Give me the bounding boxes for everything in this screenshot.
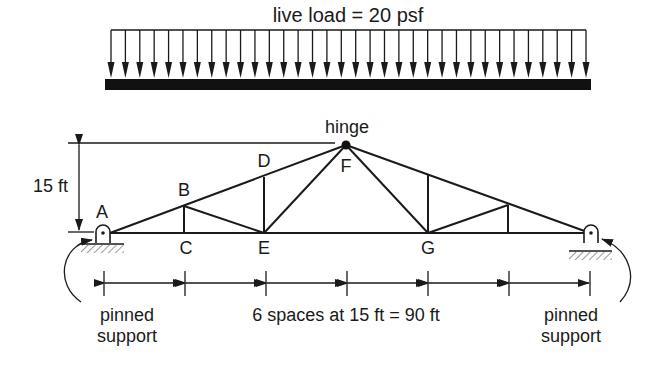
left-support-label-line2: support <box>97 326 157 346</box>
left-support-label-line1: pinned <box>100 305 154 325</box>
right-pinned-support <box>569 225 612 260</box>
hinge-pin <box>342 141 351 150</box>
node-label-c: C <box>180 238 193 258</box>
height-dimension <box>68 143 335 232</box>
distributed-load-arrows <box>108 30 590 78</box>
node-label-f: F <box>341 156 352 176</box>
node-label-g: G <box>421 238 435 258</box>
node-label-e: E <box>258 238 270 258</box>
truss-diagram: live load = 20 psf 15 ft hinge A B C D E… <box>0 0 660 374</box>
load-beam <box>105 79 591 90</box>
node-label-b: B <box>178 180 190 200</box>
span-dimension <box>104 271 590 296</box>
height-dimension-label: 15 ft <box>33 176 68 196</box>
node-label-d: D <box>258 151 271 171</box>
span-dimension-label: 6 spaces at 15 ft = 90 ft <box>252 305 440 325</box>
right-support-leader <box>602 239 630 302</box>
right-support-label-line2: support <box>541 326 601 346</box>
node-label-a: A <box>96 202 108 222</box>
hinge-label: hinge <box>325 117 369 137</box>
load-label: live load = 20 psf <box>273 4 424 26</box>
right-support-label-line1: pinned <box>544 305 598 325</box>
